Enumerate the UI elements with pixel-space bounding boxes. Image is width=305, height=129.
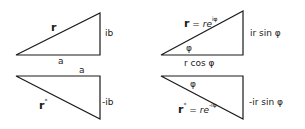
label-ib: ib <box>105 29 113 38</box>
label-ir-sin: ir sin φ <box>250 29 281 38</box>
triangle-cartesian-bottom <box>16 76 100 119</box>
label-r-top: r <box>51 22 56 33</box>
label-exp: iφ <box>212 15 218 22</box>
label-eq: = <box>189 19 202 29</box>
label-r-star: r* <box>39 100 47 111</box>
label-re-bottom: re <box>200 105 209 115</box>
label-exp-bottom: -iφ <box>209 101 217 108</box>
label-a-bottom: a <box>79 66 85 75</box>
label-phi-top: φ <box>186 44 192 53</box>
label-a-top: a <box>58 57 64 66</box>
label-r-cos: r cos φ <box>184 59 215 68</box>
label-re: re <box>203 19 212 29</box>
label-r-star-sup: * <box>44 97 47 104</box>
label-phi-bottom: φ <box>190 80 196 89</box>
label-star: * <box>183 101 186 108</box>
label-minus-ir-sin: -ir sin φ <box>249 98 283 107</box>
label-eq-bottom: = <box>186 105 199 115</box>
label-r-polar: r = reiφ <box>184 18 218 29</box>
triangle-cartesian-top <box>16 13 100 55</box>
label-r-star-polar: r* = re-iφ <box>178 104 217 115</box>
label-minus-ib: -ib <box>102 98 113 107</box>
